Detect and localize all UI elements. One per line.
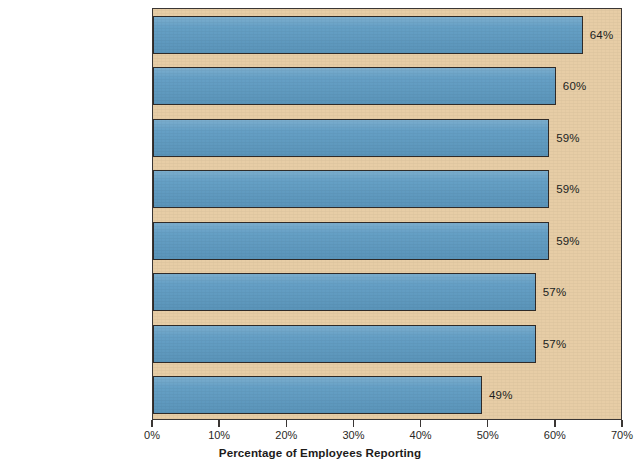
bar-row: 57% (153, 273, 621, 311)
x-axis-tick (420, 420, 422, 427)
plot-area: 64%60%59%59%59%57%57%49% (152, 8, 622, 420)
x-axis-tick (151, 420, 153, 427)
bar-sheen (154, 171, 548, 207)
bar-sheen (154, 68, 555, 104)
bar-row: 59% (153, 170, 621, 208)
bar-sheen (154, 120, 548, 156)
x-axis-title: Percentage of Employees Reporting (0, 446, 640, 459)
bar-sheen (154, 17, 582, 53)
bar[interactable] (153, 222, 549, 260)
bar-row: 59% (153, 119, 621, 157)
bar-row: 57% (153, 325, 621, 363)
bar-value-label: 49% (489, 389, 513, 401)
bar-value-label: 64% (590, 29, 614, 41)
bars-container: 64%60%59%59%59%57%57%49% (153, 9, 621, 419)
x-axis-tick (621, 420, 623, 427)
bar-value-label: 59% (556, 183, 580, 195)
bar[interactable] (153, 325, 536, 363)
x-axis-tick (487, 420, 489, 427)
bar-row: 60% (153, 67, 621, 105)
bar-value-label: 60% (563, 80, 587, 92)
bar[interactable] (153, 67, 556, 105)
bar[interactable] (153, 16, 583, 54)
x-axis-tick-label: 10% (208, 429, 230, 441)
bar-row: 59% (153, 222, 621, 260)
x-axis-tick-label: 0% (144, 429, 160, 441)
x-axis-tick-label: 30% (342, 429, 364, 441)
bar[interactable] (153, 273, 536, 311)
x-axis-tick-label: 60% (544, 429, 566, 441)
bar-sheen (154, 377, 481, 413)
bar-value-label: 57% (543, 286, 567, 298)
x-axis-tick-label: 70% (611, 429, 633, 441)
bar-value-label: 57% (543, 338, 567, 350)
bar-row: 64% (153, 16, 621, 54)
x-axis-tick (554, 420, 556, 427)
x-axis-tick (218, 420, 220, 427)
x-axis-tick-label: 40% (410, 429, 432, 441)
x-axis-tick (286, 420, 288, 427)
bar-chart: Pressure to do whatever ittakes to meet … (0, 0, 640, 462)
x-axis-tick (353, 420, 355, 427)
bar[interactable] (153, 170, 549, 208)
bar-value-label: 59% (556, 235, 580, 247)
bar-sheen (154, 274, 535, 310)
bar-row: 49% (153, 376, 621, 414)
bar[interactable] (153, 376, 482, 414)
x-axis-tick-label: 50% (477, 429, 499, 441)
x-axis-tick-label: 20% (275, 429, 297, 441)
bar-value-label: 59% (556, 132, 580, 144)
bar-sheen (154, 223, 548, 259)
bar[interactable] (153, 119, 549, 157)
bar-sheen (154, 326, 535, 362)
